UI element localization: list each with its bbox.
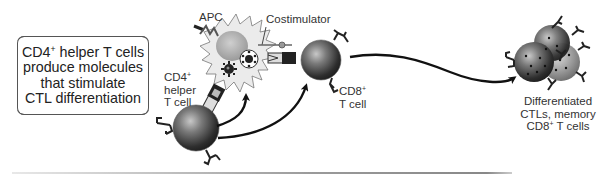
receptor-icon [578,42,590,50]
antigen-gear-icon [221,61,237,77]
bottom-divider [12,172,512,174]
receptor-icon [548,78,556,90]
cd8-t-cell [301,30,348,92]
cd4-helper-t-cell [157,105,220,164]
receptor-icon [204,150,220,164]
receptor-icon [572,26,584,35]
receptor-icon [157,118,172,134]
cd4-helper-label: CD4+ helper T cell [164,71,196,109]
differentiated-ctl-label: Differentiated CTLs, memory CD8+ T cells [512,95,604,133]
arrow-cd4-to-apc [217,96,246,126]
receptor-icon [334,30,348,42]
apc-cell [194,14,276,92]
costimulator-molecule-icon [279,42,285,48]
diagram-canvas [0,0,609,175]
arrow-cd8-to-ctl [350,55,514,82]
arrow-cd4-to-cd8 [218,86,306,138]
receptor-icon [576,72,586,82]
differentiated-ctl-cluster [506,16,590,90]
costimulator-label: Costimulator [266,13,331,26]
cd8-tcell-label: CD8+ T cell [339,85,366,110]
tcr-mhc-complex-cd8 [268,52,296,64]
apc-label: APC [199,11,223,24]
receptor-icon [330,78,338,92]
receptor-icon [506,52,514,67]
